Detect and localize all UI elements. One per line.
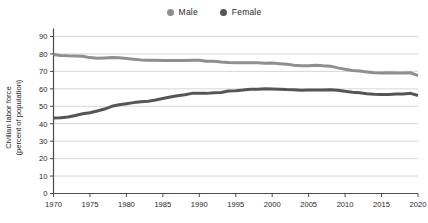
x-tick-label-1970: 1970 bbox=[45, 200, 62, 209]
x-tick-label-2015: 2015 bbox=[373, 200, 390, 209]
y-tick-label-80: 80 bbox=[39, 50, 47, 59]
x-tick-label-1990: 1990 bbox=[191, 200, 208, 209]
x-tick-label-1985: 1985 bbox=[154, 200, 171, 209]
x-tick-label-2005: 2005 bbox=[300, 200, 317, 209]
y-tick-label-20: 20 bbox=[39, 154, 47, 163]
x-tick-label-1995: 1995 bbox=[227, 200, 244, 209]
y-tick-label-40: 40 bbox=[39, 120, 47, 129]
y-tick-label-30: 30 bbox=[39, 137, 47, 146]
x-tick-label-1980: 1980 bbox=[118, 200, 135, 209]
y-tick-label-10: 10 bbox=[39, 172, 47, 181]
labor-force-line-chart: Male Female Civilian labor force (percen… bbox=[0, 0, 428, 223]
y-tick-label-60: 60 bbox=[39, 85, 47, 94]
plot-area: 9080706050403020100 19701975198019851990… bbox=[0, 0, 428, 223]
x-tick-label-2010: 2010 bbox=[337, 200, 354, 209]
y-tick-labels-group: 9080706050403020100 bbox=[39, 32, 47, 198]
x-tick-labels-group: 1970197519801985199019952000200520102015… bbox=[45, 200, 426, 209]
y-tick-label-70: 70 bbox=[39, 67, 47, 76]
y-tick-label-50: 50 bbox=[39, 102, 47, 111]
x-tick-label-2000: 2000 bbox=[264, 200, 281, 209]
series-line-male bbox=[54, 54, 419, 75]
y-tick-label-0: 0 bbox=[43, 189, 47, 198]
y-tick-label-90: 90 bbox=[39, 32, 47, 41]
series-line-female bbox=[54, 89, 419, 118]
x-tick-label-2020: 2020 bbox=[410, 200, 427, 209]
x-tick-label-1975: 1975 bbox=[81, 200, 98, 209]
